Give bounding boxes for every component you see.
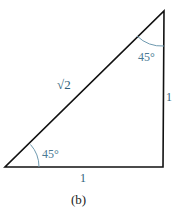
angle-arc-top: [137, 36, 164, 46]
angle-label-top: 45°: [138, 50, 155, 64]
hypotenuse-label: √2: [57, 77, 71, 92]
bottom-side-label: 1: [80, 171, 86, 185]
angle-label-bottom: 45°: [42, 147, 59, 161]
angle-arc-bottom: [31, 145, 40, 168]
triangle-diagram: 45° 45° √2 1 1 (b): [0, 0, 173, 208]
figure-caption: (b): [71, 192, 86, 207]
vertical-side-label: 1: [166, 90, 172, 104]
right-triangle: [5, 11, 164, 167]
